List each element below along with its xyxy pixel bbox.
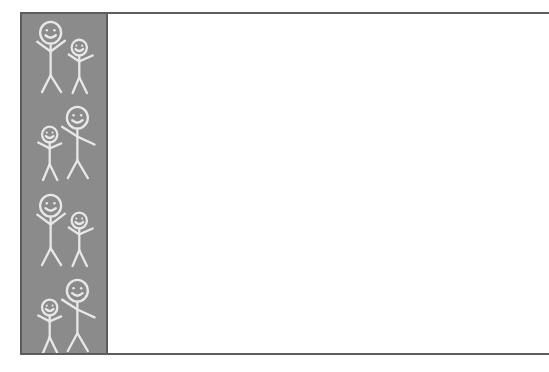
bottom-horizontal-rule xyxy=(20,353,549,355)
document-content-area[interactable] xyxy=(110,14,549,353)
decorative-people-sidebar xyxy=(20,12,108,355)
document-body[interactable] xyxy=(110,14,549,353)
stick-figure-people-icon xyxy=(22,14,106,353)
document-frame xyxy=(0,0,549,372)
